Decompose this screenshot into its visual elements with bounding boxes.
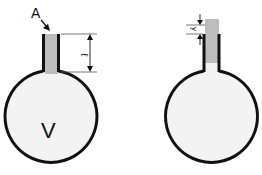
y-arrow-down-icon: [197, 20, 203, 25]
left-flask: A ℓ V: [4, 5, 97, 162]
y-arrow-up-icon: [197, 34, 203, 39]
length-label: ℓ: [79, 53, 90, 57]
y-label: y: [190, 27, 199, 31]
length-arrow-down-icon: [87, 66, 93, 72]
area-label: A: [31, 5, 41, 21]
right-neck-column: [205, 19, 219, 63]
right-neck-lower: [205, 63, 219, 73]
length-arrow-up-icon: [87, 34, 93, 40]
left-neck-column: [45, 34, 58, 74]
volume-label: V: [41, 118, 56, 143]
area-arrow-head-icon: [43, 24, 50, 31]
right-flask: y: [165, 14, 258, 162]
diagram-canvas: A ℓ V y: [0, 0, 262, 175]
